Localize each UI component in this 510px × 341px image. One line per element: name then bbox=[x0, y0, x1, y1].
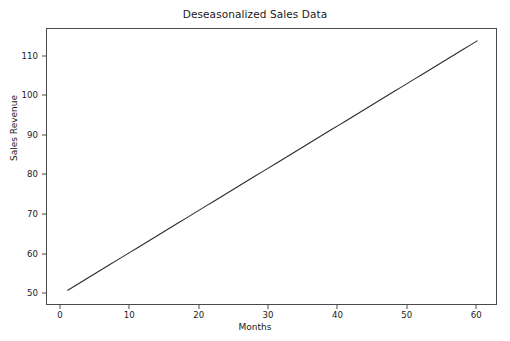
x-tick-label: 60 bbox=[456, 310, 496, 320]
y-tick-label: 80 bbox=[4, 169, 38, 179]
x-tick-mark bbox=[476, 305, 477, 309]
y-tick-label: 50 bbox=[4, 288, 38, 298]
x-tick-label: 0 bbox=[40, 310, 80, 320]
x-tick-label: 10 bbox=[109, 310, 149, 320]
y-tick-label: 70 bbox=[4, 209, 38, 219]
x-tick-mark bbox=[198, 305, 199, 309]
x-tick-label: 40 bbox=[317, 310, 357, 320]
x-tick-mark bbox=[406, 305, 407, 309]
y-tick-label: 90 bbox=[4, 130, 38, 140]
x-tick-mark bbox=[59, 305, 60, 309]
y-tick-label: 100 bbox=[4, 90, 38, 100]
x-tick-label: 50 bbox=[387, 310, 427, 320]
y-tick-label: 110 bbox=[4, 51, 38, 61]
x-tick-mark bbox=[129, 305, 130, 309]
x-tick-mark bbox=[268, 305, 269, 309]
data-line-svg bbox=[47, 29, 498, 306]
x-axis-label: Months bbox=[0, 322, 510, 332]
x-tick-mark bbox=[337, 305, 338, 309]
plot-area bbox=[46, 28, 497, 305]
chart-title: Deseasonalized Sales Data bbox=[0, 8, 510, 20]
chart-figure: Deseasonalized Sales Data Sales Revenue … bbox=[0, 0, 510, 341]
x-tick-label: 20 bbox=[179, 310, 219, 320]
y-tick-label: 60 bbox=[4, 249, 38, 259]
series-line-deseasonalized-sales bbox=[68, 41, 477, 290]
x-tick-label: 30 bbox=[248, 310, 288, 320]
